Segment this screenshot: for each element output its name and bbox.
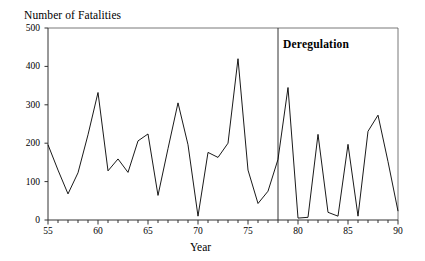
x-axis-title-text: Year xyxy=(190,241,211,253)
y-tick-label: 400 xyxy=(14,61,40,71)
y-tick-label: 500 xyxy=(14,23,40,33)
y-axis-title: Number of Fatalities xyxy=(24,9,121,22)
x-axis-title: Year xyxy=(0,241,425,254)
x-tick-label: 70 xyxy=(186,226,210,236)
fatalities-series-line xyxy=(48,59,398,218)
x-tick-label: 80 xyxy=(286,226,310,236)
y-tick-label: 300 xyxy=(14,100,40,110)
x-tick-label: 55 xyxy=(36,226,60,236)
x-tick-label: 85 xyxy=(336,226,360,236)
line-chart-plot-area xyxy=(0,0,425,261)
x-tick-label: 65 xyxy=(136,226,160,236)
x-tick-label: 60 xyxy=(86,226,110,236)
x-tick-label: 90 xyxy=(386,226,410,236)
y-tick-label: 0 xyxy=(14,215,40,225)
y-tick-label: 200 xyxy=(14,138,40,148)
chart-figure: Number of Fatalities Deregulation Year 0… xyxy=(0,0,425,261)
deregulation-annotation-label: Deregulation xyxy=(283,38,349,51)
y-tick-label: 100 xyxy=(14,177,40,187)
x-tick-label: 75 xyxy=(236,226,260,236)
